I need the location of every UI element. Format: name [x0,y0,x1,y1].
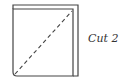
cut-label: Cut 2 [88,32,118,45]
